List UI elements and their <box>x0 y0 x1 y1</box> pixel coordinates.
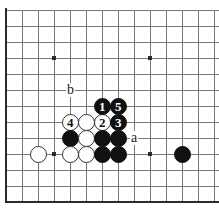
go-stone-black <box>62 130 79 147</box>
go-stone-white <box>78 130 95 147</box>
go-board-diagram: 42153 ba <box>0 0 219 216</box>
go-stone-black <box>94 146 111 163</box>
stone-move-number: 2 <box>99 115 105 128</box>
go-stone-black <box>110 130 127 147</box>
go-stone-black-1: 1 <box>94 98 111 115</box>
go-stone-black <box>94 130 111 147</box>
stone-move-number: 4 <box>67 115 73 128</box>
stone-move-number: 5 <box>115 99 121 112</box>
go-stone-white-4: 4 <box>62 114 79 131</box>
go-stone-white <box>78 146 95 163</box>
star-point <box>148 152 152 156</box>
point-label-b: b <box>66 83 75 97</box>
go-stone-white <box>78 114 95 131</box>
go-stone-black <box>174 146 191 163</box>
go-stone-black <box>110 146 127 163</box>
go-stone-black-3: 3 <box>110 114 127 131</box>
go-stone-white <box>62 146 79 163</box>
star-point <box>52 56 56 60</box>
star-point <box>148 56 152 60</box>
go-stone-white-2: 2 <box>94 114 111 131</box>
star-point <box>52 152 56 156</box>
point-label-a: a <box>130 131 138 145</box>
stone-move-number: 1 <box>99 99 105 112</box>
go-stone-black-5: 5 <box>110 98 127 115</box>
go-stone-white <box>30 146 47 163</box>
stone-move-number: 3 <box>115 115 121 128</box>
